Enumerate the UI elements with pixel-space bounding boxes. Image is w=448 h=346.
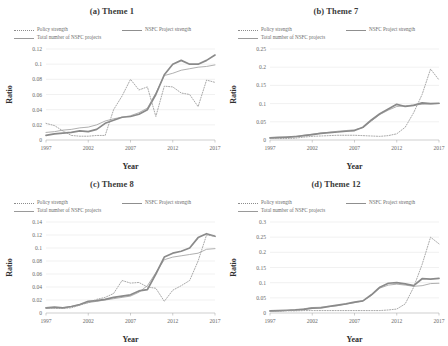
legend-item-policy-strength: Policy strength: [238, 198, 346, 206]
legend-item-policy-strength: Policy strength: [14, 198, 122, 206]
y-tick-label: 0.08: [32, 76, 42, 82]
legend-label: Policy strength: [37, 198, 68, 206]
series-line: [270, 103, 439, 138]
y-tick-label: 0.1: [35, 61, 42, 67]
legend-item-total-projects: Total number of NSFC projects: [238, 33, 325, 41]
y-tick-label: 0.3: [259, 219, 266, 225]
y-tick-label: 0.2: [259, 249, 266, 255]
y-axis-label: Ratio: [5, 258, 14, 277]
legend-item-total-projects: Total number of NSFC projects: [14, 33, 101, 41]
chart-title-b: (b) Theme 7: [224, 6, 448, 16]
dotted-line-icon: [14, 30, 34, 31]
series-line: [46, 65, 215, 133]
y-tick-label: 0.05: [256, 119, 266, 125]
x-tick-label: 2007: [349, 318, 360, 324]
x-tick-label: 2012: [167, 145, 178, 151]
series-line: [46, 79, 215, 136]
y-tick-label: 0.12: [32, 232, 42, 238]
y-tick-label: 0.1: [259, 101, 266, 107]
dotted-line-icon: [14, 203, 34, 204]
dotted-line-icon: [238, 30, 258, 31]
series-line: [46, 55, 215, 135]
legend-label: Policy strength: [261, 198, 292, 206]
thin-line-icon: [238, 38, 258, 39]
solid-line-icon: [122, 203, 142, 204]
x-axis-label: Year: [347, 162, 363, 171]
x-tick-label: 2012: [391, 318, 402, 324]
thin-line-icon: [14, 211, 34, 212]
y-tick-label: 0.14: [32, 219, 42, 225]
x-axis-label: Year: [347, 335, 363, 344]
legend-label: Policy strength: [261, 25, 292, 33]
legend-item-project-strength: NSFC Project strength: [122, 198, 191, 206]
solid-line-icon: [346, 30, 366, 31]
y-tick-label: 0.15: [256, 265, 266, 271]
x-tick-label: 2002: [307, 318, 318, 324]
y-tick-label: 0: [39, 137, 42, 143]
plot-area-a: 00.020.040.060.080.10.121997200220072012…: [0, 42, 224, 173]
series-line: [270, 104, 439, 139]
x-tick-label: 2017: [209, 318, 220, 324]
y-tick-label: 0.2: [259, 64, 266, 70]
chart-panel-d: (d) Theme 12 Policy strength NSFC Projec…: [224, 173, 448, 346]
y-tick-label: 0.08: [32, 258, 42, 264]
legend-label: Total number of NSFC projects: [261, 206, 325, 214]
chart-panel-c: (c) Theme 8 Policy strength NSFC Project…: [0, 173, 224, 346]
figure-grid: (a) Theme 1 Policy strength NSFC Project…: [0, 0, 448, 346]
x-tick-label: 2007: [125, 318, 136, 324]
chart-title-c: (c) Theme 8: [0, 179, 224, 189]
x-tick-label: 2007: [349, 145, 360, 151]
legend-item-total-projects: Total number of NSFC projects: [238, 206, 325, 214]
thin-line-icon: [238, 211, 258, 212]
series-line: [270, 237, 439, 311]
x-tick-label: 2002: [83, 145, 94, 151]
dotted-line-icon: [238, 203, 258, 204]
x-tick-label: 1997: [264, 318, 275, 324]
plot-area-d: 00.050.10.150.20.250.3199720022007201220…: [224, 215, 448, 346]
x-tick-label: 1997: [40, 318, 51, 324]
y-tick-label: 0.02: [32, 297, 42, 303]
y-tick-label: 0.05: [256, 295, 266, 301]
legend-item-total-projects: Total number of NSFC projects: [14, 206, 101, 214]
solid-line-icon: [122, 30, 142, 31]
legend-item-project-strength: NSFC Project strength: [122, 25, 191, 33]
x-tick-label: 2002: [83, 318, 94, 324]
chart-title-d: (d) Theme 12: [224, 179, 448, 189]
x-tick-label: 2017: [433, 318, 444, 324]
legend-label: NSFC Project strength: [369, 198, 415, 206]
y-tick-label: 0.06: [32, 271, 42, 277]
x-tick-label: 2012: [391, 145, 402, 151]
series-line: [270, 283, 439, 311]
legend-item-policy-strength: Policy strength: [238, 25, 346, 33]
chart-legend-c: Policy strength NSFC Project strength To…: [14, 198, 220, 214]
y-tick-label: 0.04: [32, 284, 42, 290]
y-tick-label: 0.12: [32, 46, 42, 52]
y-tick-label: 0.06: [32, 92, 42, 98]
x-tick-label: 1997: [264, 145, 275, 151]
y-tick-label: 0: [263, 310, 266, 316]
plot-area-c: 00.020.040.060.080.10.120.14199720022007…: [0, 215, 224, 346]
y-axis-label: Ratio: [5, 85, 14, 104]
legend-item-project-strength: NSFC Project strength: [346, 25, 415, 33]
y-tick-label: 0: [39, 310, 42, 316]
series-line: [46, 249, 215, 309]
legend-label: Total number of NSFC projects: [37, 33, 101, 41]
series-line: [270, 278, 439, 310]
series-line: [46, 235, 215, 308]
x-tick-label: 2017: [433, 145, 444, 151]
legend-label: NSFC Project strength: [369, 25, 415, 33]
legend-label: Policy strength: [37, 25, 68, 33]
x-tick-label: 2012: [167, 318, 178, 324]
legend-label: NSFC Project strength: [145, 25, 191, 33]
y-axis-label: Ratio: [229, 258, 238, 277]
y-axis-label: Ratio: [229, 85, 238, 104]
thin-line-icon: [14, 38, 34, 39]
y-tick-label: 0.15: [256, 82, 266, 88]
y-tick-label: 0: [263, 137, 266, 143]
chart-legend-d: Policy strength NSFC Project strength To…: [238, 198, 444, 214]
x-tick-label: 1997: [40, 145, 51, 151]
legend-item-policy-strength: Policy strength: [14, 25, 122, 33]
y-tick-label: 0.25: [256, 234, 266, 240]
legend-label: NSFC Project strength: [145, 198, 191, 206]
y-tick-label: 0.25: [256, 46, 266, 52]
